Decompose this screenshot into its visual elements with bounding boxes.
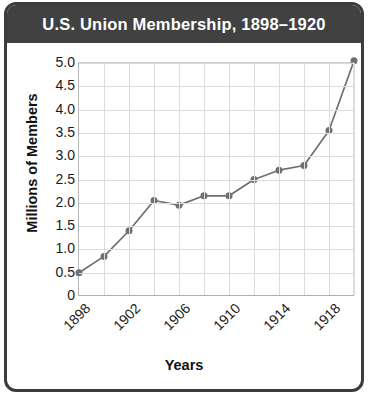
y-tick-label: 4.0: [56, 102, 75, 116]
vertical-gridline: [329, 63, 330, 295]
x-tick-label: 1906: [147, 300, 194, 347]
horizontal-gridline: [79, 156, 353, 157]
horizontal-gridline: [79, 249, 353, 250]
vertical-gridline: [354, 63, 355, 295]
plot-area: [78, 62, 353, 295]
x-tick-label: 1910: [197, 300, 244, 347]
horizontal-gridline: [79, 180, 353, 181]
vertical-gridline: [204, 63, 205, 295]
y-tick-label: 1.5: [56, 218, 75, 232]
horizontal-gridline: [79, 133, 353, 134]
x-axis-line: [78, 295, 354, 296]
vertical-gridline: [304, 63, 305, 295]
y-tick-label: 3.0: [56, 148, 75, 162]
chart-title-banner: U.S. Union Membership, 1898–1920: [7, 5, 361, 43]
y-tick-label: 2.5: [56, 172, 75, 186]
x-tick-label: 1902: [97, 300, 144, 347]
y-tick-label: 2.0: [56, 195, 75, 209]
vertical-gridline: [229, 63, 230, 295]
vertical-gridline: [154, 63, 155, 295]
y-tick-label: 0: [67, 288, 75, 302]
x-axis-title: Years: [7, 357, 361, 373]
y-tick-label: 3.5: [56, 125, 75, 139]
horizontal-gridline: [79, 203, 353, 204]
vertical-gridline: [129, 63, 130, 295]
y-tick-label: 5.0: [56, 55, 75, 69]
vertical-gridline: [104, 63, 105, 295]
horizontal-gridline: [79, 226, 353, 227]
chart-title: U.S. Union Membership, 1898–1920: [42, 15, 325, 34]
horizontal-gridline: [79, 273, 353, 274]
x-tick-label: 1918: [297, 300, 344, 347]
y-tick-label: 4.5: [56, 78, 75, 92]
y-axis-tick-labels: 00.51.01.52.02.53.03.54.04.55.0: [37, 55, 75, 300]
x-tick-label: 1898: [47, 300, 94, 347]
y-tick-label: 1.0: [56, 241, 75, 255]
horizontal-gridline: [79, 63, 353, 64]
horizontal-gridline: [79, 86, 353, 87]
vertical-gridline: [179, 63, 180, 295]
horizontal-gridline: [79, 110, 353, 111]
y-tick-label: 0.5: [56, 265, 75, 279]
series-line: [79, 61, 354, 273]
plot-right-edge: [353, 62, 354, 295]
vertical-gridline: [279, 63, 280, 295]
chart-figure: U.S. Union Membership, 1898–1920 Million…: [4, 2, 364, 392]
vertical-gridline: [254, 63, 255, 295]
x-tick-label: 1914: [247, 300, 294, 347]
